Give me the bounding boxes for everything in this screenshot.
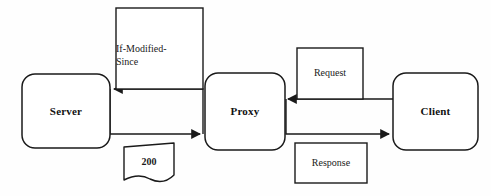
network-flow-diagram: Server Proxy Client If-Modified- Since 2… (0, 0, 491, 196)
message-response[interactable] (295, 143, 367, 183)
edge-proxy-to-client (286, 99, 389, 134)
message-request[interactable] (297, 48, 363, 99)
message-if-modified-since[interactable] (116, 8, 203, 89)
node-server[interactable] (22, 74, 110, 148)
edge-server-to-proxy (110, 89, 200, 134)
message-status-200[interactable] (124, 143, 174, 183)
edge-client-to-proxy (288, 99, 396, 134)
node-proxy[interactable] (205, 73, 285, 150)
edge-proxy-to-server (114, 89, 203, 134)
node-client[interactable] (393, 73, 478, 150)
